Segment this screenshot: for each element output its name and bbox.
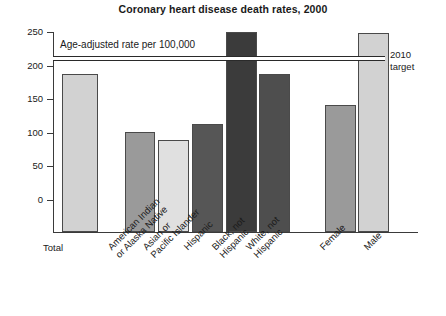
x-axis-label: Total	[43, 243, 63, 254]
bar[interactable]	[325, 105, 356, 232]
y-axis-tick	[47, 133, 53, 134]
chart-container: Coronary heart disease death rates, 2000…	[0, 0, 446, 316]
rate-annotation: Age-adjusted rate per 100,000	[60, 39, 195, 50]
bar[interactable]	[62, 74, 98, 232]
y-axis-tick	[47, 66, 53, 67]
target-reference-line	[53, 56, 385, 61]
y-axis-tick	[47, 99, 53, 100]
chart-title: Coronary heart disease death rates, 2000	[0, 3, 446, 15]
y-axis-tick-label: 50	[32, 161, 43, 170]
y-axis-tick	[47, 32, 53, 33]
bar[interactable]	[226, 32, 257, 232]
target-reference-label: 2010 target	[390, 49, 414, 73]
bar[interactable]	[358, 33, 389, 232]
y-axis-tick-label: 250	[27, 27, 43, 36]
y-axis-tick	[47, 200, 53, 201]
y-axis-tick-label: 150	[27, 94, 43, 103]
y-axis-tick-label: 0	[38, 195, 43, 204]
x-axis-label: Male	[362, 230, 384, 252]
y-axis-tick-label: 100	[27, 128, 43, 137]
x-axis-label: Female	[318, 223, 348, 253]
y-axis-tick	[47, 166, 53, 167]
bar[interactable]	[259, 74, 290, 232]
y-axis-line	[53, 32, 54, 233]
y-axis-tick-label: 200	[27, 61, 43, 70]
